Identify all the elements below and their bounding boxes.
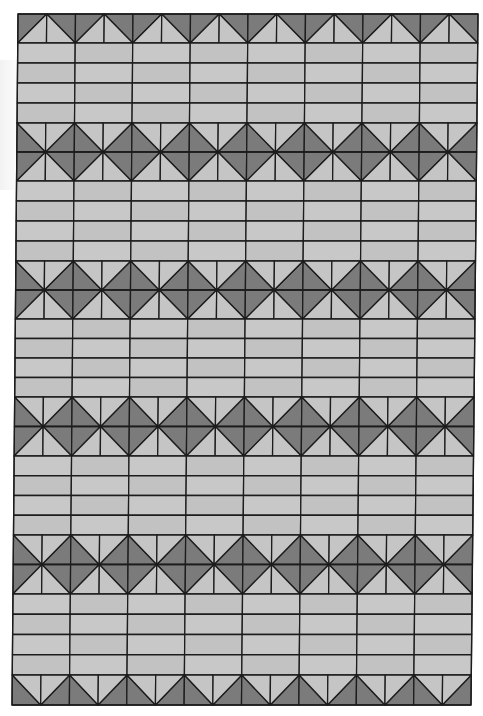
stripe-patch bbox=[129, 476, 187, 496]
stripe-patch bbox=[246, 221, 304, 241]
stripe-patch bbox=[73, 319, 131, 339]
stripe-patch bbox=[71, 515, 129, 535]
stripe-patch bbox=[132, 83, 190, 103]
stripe-patch bbox=[302, 378, 360, 398]
stripe-patch bbox=[417, 358, 475, 378]
stripe-patch bbox=[360, 319, 418, 339]
stripe-patch bbox=[243, 476, 301, 496]
stripe-patch bbox=[130, 319, 188, 339]
stripe-patch bbox=[185, 614, 243, 634]
quilt-diagram bbox=[0, 0, 483, 716]
stripe-patch bbox=[16, 221, 74, 241]
stripe-patch bbox=[420, 63, 478, 83]
stripe-patch bbox=[75, 43, 133, 63]
stripe-patch bbox=[301, 476, 359, 496]
stripe-patch bbox=[128, 594, 186, 614]
stripe-patch bbox=[243, 496, 301, 516]
stripe-patch bbox=[242, 655, 300, 675]
stripe-patch bbox=[186, 476, 244, 496]
stripe-patch bbox=[361, 201, 419, 221]
stripe-patch bbox=[13, 594, 71, 614]
stripe-patch bbox=[128, 496, 186, 516]
stripe-patch bbox=[190, 43, 248, 63]
stripe-patch bbox=[186, 496, 244, 516]
stripe-patch bbox=[417, 378, 475, 398]
stripe-patch bbox=[17, 103, 75, 123]
stripe-patch bbox=[359, 378, 417, 398]
stripe-patch bbox=[131, 181, 189, 201]
stripe-patch bbox=[419, 103, 477, 123]
stripe-patch bbox=[188, 241, 246, 261]
stripe-patch bbox=[185, 635, 243, 655]
stripe-patch bbox=[15, 358, 73, 378]
stripe-patch bbox=[13, 614, 71, 634]
stripe-patch bbox=[127, 635, 185, 655]
stripe-patch bbox=[74, 201, 132, 221]
stripe-patch bbox=[127, 655, 185, 675]
stripe-patch bbox=[358, 496, 416, 516]
stripe-patch bbox=[420, 43, 478, 63]
stripe-patch bbox=[305, 83, 363, 103]
stripe-patch bbox=[305, 63, 363, 83]
stripe-patch bbox=[245, 319, 303, 339]
stripe-patch bbox=[357, 594, 415, 614]
stripe-patch bbox=[362, 83, 420, 103]
stripe-patch bbox=[127, 614, 185, 634]
stripe-patch bbox=[70, 655, 128, 675]
stripe-patch bbox=[12, 635, 70, 655]
stripe-patch bbox=[242, 635, 300, 655]
stripe-patch bbox=[247, 83, 305, 103]
stripe-patch bbox=[187, 339, 245, 359]
stripe-patch bbox=[13, 515, 71, 535]
stripe-patch bbox=[188, 319, 246, 339]
stripe-patch bbox=[362, 103, 420, 123]
stripe-patch bbox=[185, 594, 243, 614]
stripe-patch bbox=[303, 241, 361, 261]
stripe-patch bbox=[130, 358, 188, 378]
stripe-patch bbox=[15, 339, 73, 359]
stripe-patch bbox=[15, 378, 73, 398]
stripe-patch bbox=[133, 43, 191, 63]
stripe-patch bbox=[190, 63, 248, 83]
stripe-patch bbox=[189, 201, 247, 221]
stripe-patch bbox=[71, 456, 129, 476]
stripe-patch bbox=[187, 358, 245, 378]
stripe-patch bbox=[357, 635, 415, 655]
stripe-patch bbox=[361, 241, 419, 261]
stripe-patch bbox=[358, 515, 416, 535]
stripe-patch bbox=[302, 339, 360, 359]
stripe-patch bbox=[75, 63, 133, 83]
stripe-patch bbox=[70, 614, 128, 634]
stripe-patch bbox=[131, 201, 189, 221]
stripe-patch bbox=[361, 181, 419, 201]
stripe-patch bbox=[304, 103, 362, 123]
stripe-patch bbox=[417, 339, 475, 359]
stripe-patch bbox=[301, 456, 359, 476]
stripe-patch bbox=[242, 594, 300, 614]
stripe-patch bbox=[16, 181, 74, 201]
stripe-patch bbox=[16, 201, 74, 221]
stripe-patch bbox=[359, 358, 417, 378]
stripe-patch bbox=[415, 515, 473, 535]
stripe-patch bbox=[244, 456, 302, 476]
stripe-patch bbox=[132, 63, 190, 83]
stripe-patch bbox=[363, 43, 421, 63]
stripe-patch bbox=[17, 83, 75, 103]
stripe-patch bbox=[186, 515, 244, 535]
stripe-patch bbox=[302, 358, 360, 378]
stripe-patch bbox=[246, 181, 304, 201]
stripe-patch bbox=[305, 43, 363, 63]
stripe-patch bbox=[358, 456, 416, 476]
stripe-patch bbox=[244, 378, 302, 398]
stripe-patch bbox=[130, 378, 188, 398]
stripe-patch bbox=[414, 614, 472, 634]
stripe-patch bbox=[72, 339, 130, 359]
stripe-patch bbox=[186, 456, 244, 476]
stripe-patch bbox=[70, 594, 128, 614]
stripe-patch bbox=[415, 594, 473, 614]
stripe-patch bbox=[15, 319, 73, 339]
stripe-patch bbox=[184, 655, 242, 675]
stripe-patch bbox=[247, 103, 305, 123]
stripe-patch bbox=[362, 63, 420, 83]
stripe-patch bbox=[14, 476, 72, 496]
